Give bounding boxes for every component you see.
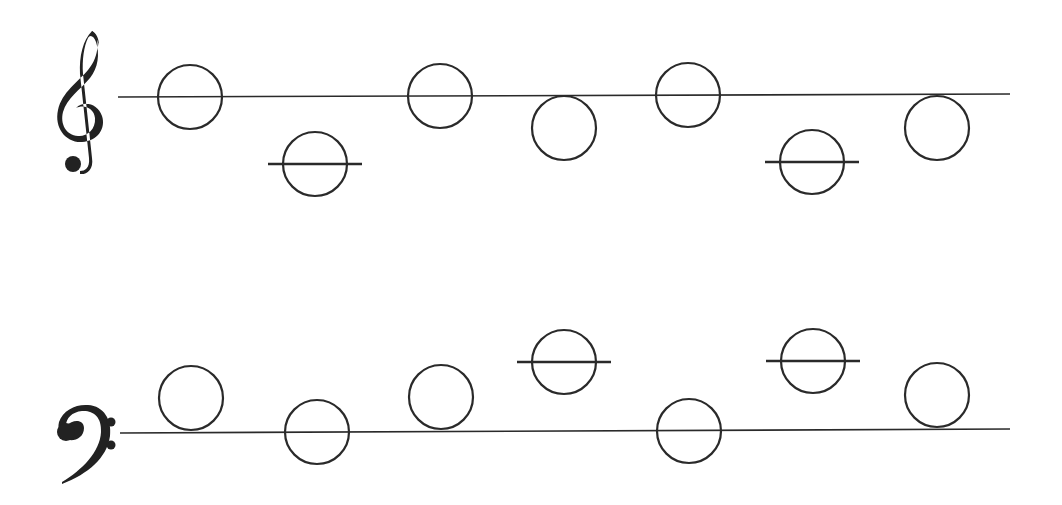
note-head — [532, 96, 596, 160]
note-head — [409, 365, 473, 429]
whole-note-icon — [268, 132, 362, 196]
note-head — [159, 366, 223, 430]
bass-staff — [120, 329, 1010, 464]
whole-note-icon — [532, 96, 596, 160]
whole-note-icon — [517, 330, 611, 394]
staff-line — [120, 429, 1010, 433]
whole-note-icon — [159, 366, 223, 430]
whole-note-icon — [766, 329, 860, 393]
note-head — [905, 96, 969, 160]
treble-clef-icon — [57, 31, 103, 174]
whole-note-icon — [905, 96, 969, 160]
whole-note-icon — [905, 363, 969, 427]
whole-note-icon — [765, 130, 859, 194]
score — [0, 0, 1062, 505]
bass-clef-icon — [57, 405, 116, 484]
whole-note-icon — [409, 365, 473, 429]
treble-staff — [118, 63, 1010, 196]
music-worksheet — [0, 0, 1062, 505]
note-head — [905, 363, 969, 427]
